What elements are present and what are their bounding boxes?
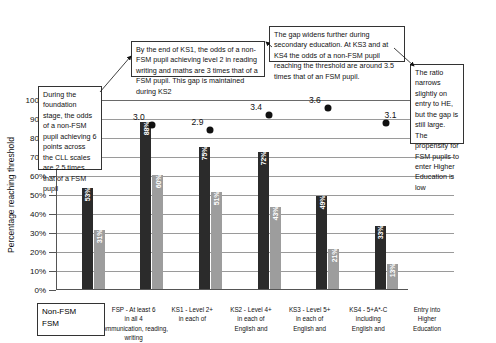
bar-value-label: 49% bbox=[318, 196, 325, 209]
annotation-secondary-gap: The gap widens further during secondary … bbox=[269, 26, 405, 62]
x-axis-labels: FSP - At least 6in all 4communication, r… bbox=[108, 305, 496, 339]
bar-value-label: 21% bbox=[330, 249, 337, 262]
bar-fsm: 60% bbox=[152, 175, 163, 289]
y-axis-tick bbox=[49, 233, 56, 234]
annotation-higher-education: The ratio narrows slightly on entry to H… bbox=[410, 64, 464, 144]
annotation-end-of-ks1: By the end of KS1, the odds of a non-FSM… bbox=[131, 41, 265, 77]
plot-area: 0%10%20%30%40%50%60%70%80%90%100%53%31%8… bbox=[56, 100, 408, 290]
ratio-marker-label: 2.9 bbox=[192, 117, 204, 127]
ratio-marker-dot bbox=[383, 119, 390, 126]
ratio-marker-dot bbox=[207, 127, 214, 134]
bar-group: 72%43% bbox=[258, 100, 281, 289]
bar-value-label: 72% bbox=[260, 152, 267, 165]
bar-value-label: 60% bbox=[154, 175, 161, 188]
ratio-marker-dot bbox=[266, 112, 273, 119]
y-axis-tick-label: 0% bbox=[34, 286, 46, 295]
bar-non-fsm: 88% bbox=[140, 122, 151, 289]
bar-value-label: 13% bbox=[389, 264, 396, 277]
x-axis-category-label: Entry intoHigherEducation bbox=[385, 305, 469, 333]
ratio-marker-dot bbox=[148, 121, 155, 128]
y-axis-tick-label: 20% bbox=[30, 248, 46, 257]
bar-value-label: 43% bbox=[272, 207, 279, 220]
bar-fsm: 51% bbox=[211, 192, 222, 289]
ratio-marker-label: 3.4 bbox=[250, 102, 262, 112]
bar-non-fsm: 49% bbox=[316, 196, 327, 289]
x-axis-category-line: Higher bbox=[385, 314, 469, 323]
y-axis-tick-label: 10% bbox=[30, 267, 46, 276]
bar-value-label: 31% bbox=[96, 230, 103, 243]
legend-item-fsm: FSM bbox=[42, 318, 100, 330]
bar-fsm: 13% bbox=[387, 264, 398, 289]
y-axis-tick bbox=[49, 195, 56, 196]
bar-fsm: 31% bbox=[94, 230, 105, 289]
y-axis-tick bbox=[49, 290, 56, 291]
bar-non-fsm: 33% bbox=[375, 226, 386, 289]
ratio-marker-label: 3.0 bbox=[133, 112, 145, 122]
x-axis-category-line: Entry into bbox=[385, 305, 469, 314]
ratio-marker-label: 3.6 bbox=[309, 95, 321, 105]
bar-group: 49%21% bbox=[316, 100, 339, 289]
bar-non-fsm: 75% bbox=[199, 147, 210, 290]
y-axis-tick-label: 40% bbox=[30, 210, 46, 219]
bar-value-label: 53% bbox=[84, 188, 91, 201]
y-axis-tick bbox=[49, 252, 56, 253]
bar-fsm: 21% bbox=[328, 249, 339, 289]
bar-group: 88%60% bbox=[140, 100, 163, 289]
y-axis-tick bbox=[49, 271, 56, 272]
bar-value-label: 33% bbox=[377, 226, 384, 239]
annotation-foundation-stage: During the foundation stage, the odds of… bbox=[38, 86, 102, 170]
bar-non-fsm: 72% bbox=[258, 152, 269, 289]
bar-non-fsm: 53% bbox=[82, 188, 93, 289]
bar-value-label: 75% bbox=[201, 146, 208, 159]
legend: Non-FSM FSM bbox=[37, 303, 105, 336]
y-axis-tick-label: 30% bbox=[30, 229, 46, 238]
x-axis-category-line: Education bbox=[385, 324, 469, 333]
bar-fsm: 43% bbox=[270, 207, 281, 289]
ratio-marker-label: 3.1 bbox=[385, 110, 397, 120]
legend-item-non-fsm: Non-FSM bbox=[42, 306, 100, 318]
ratio-marker-dot bbox=[324, 104, 331, 111]
bar-value-label: 51% bbox=[213, 192, 220, 205]
y-axis-title: Percentage reaching threshold bbox=[6, 100, 18, 290]
y-axis-tick bbox=[49, 214, 56, 215]
bar-group: 33%13% bbox=[375, 100, 398, 289]
